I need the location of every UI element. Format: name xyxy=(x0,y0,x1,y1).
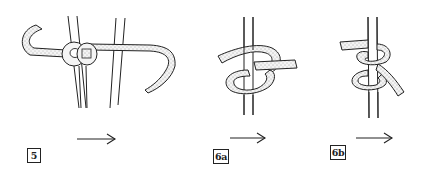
step-label-5: 5 xyxy=(27,148,41,163)
rope-main-strand xyxy=(90,44,175,93)
step-5-illustration xyxy=(22,16,175,108)
rope-lower-loop xyxy=(226,70,274,94)
rope-left-hook xyxy=(22,25,66,57)
rope-loop-2 xyxy=(77,43,97,65)
arrow-step-5 xyxy=(77,134,115,144)
pole-right xyxy=(110,18,125,108)
step-6b-illustration xyxy=(340,17,404,118)
step-6a-illustration xyxy=(218,17,297,115)
step-label-6a: 6a xyxy=(213,149,229,164)
rope-tail xyxy=(254,60,297,70)
arrow-step-6a xyxy=(230,133,265,143)
arrow-step-6b xyxy=(356,133,392,143)
knot-diagram xyxy=(0,0,423,177)
step-label-6b: 6b xyxy=(330,145,346,160)
rope-left-strand xyxy=(340,40,368,50)
